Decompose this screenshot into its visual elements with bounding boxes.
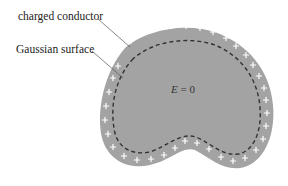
plus-charge-icon <box>141 30 146 35</box>
plus-charge-icon <box>169 23 174 28</box>
field-symbol: E <box>171 83 178 95</box>
conductor-diagram <box>0 0 288 186</box>
charged-conductor-shape <box>100 28 273 169</box>
field-equation: = 0 <box>178 83 195 95</box>
charged-conductor-leader <box>98 19 130 47</box>
gaussian-surface-label: Gaussian surface <box>16 44 94 56</box>
charged-conductor-label: charged conductor <box>18 11 103 23</box>
interior-field-label: E = 0 <box>171 84 195 95</box>
plus-charge-icon <box>155 25 160 30</box>
